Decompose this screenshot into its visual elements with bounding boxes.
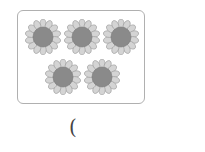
answer-paren: ( xyxy=(69,117,77,137)
sunflower-icon xyxy=(25,19,61,55)
sunflower-icon xyxy=(103,19,139,55)
sunflower-icon xyxy=(45,59,81,95)
sunflower-icon xyxy=(84,59,120,95)
sunflower-icon xyxy=(64,19,100,55)
